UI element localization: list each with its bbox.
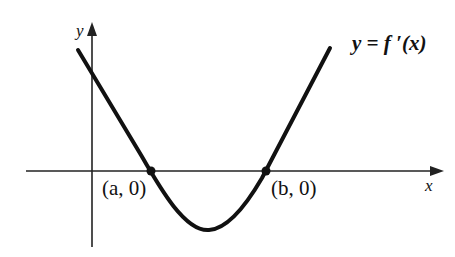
x-axis-arrow-icon <box>430 166 444 176</box>
derivative-graph: y x (a, 0) (b, 0) y = f ′(x) <box>0 0 455 257</box>
y-axis-label: y <box>74 21 84 40</box>
x-axis-label: x <box>424 176 433 195</box>
point-a-marker <box>147 167 156 176</box>
curve-label: y = f ′(x) <box>349 31 426 55</box>
point-b-label: (b, 0) <box>271 176 317 200</box>
y-axis-arrow-icon <box>87 22 97 36</box>
point-a-label: (a, 0) <box>102 176 146 200</box>
curve-f-prime <box>78 48 330 230</box>
point-b-marker <box>262 167 271 176</box>
